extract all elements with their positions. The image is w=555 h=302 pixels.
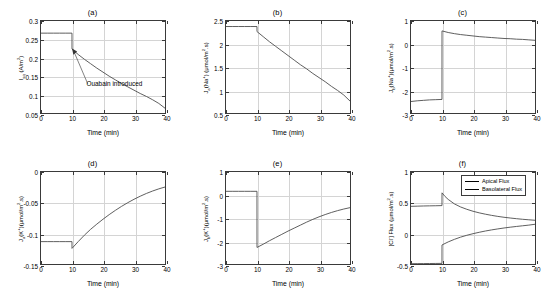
legend-item: Apical Flux: [465, 178, 522, 186]
annotation-arrow-line: [73, 51, 87, 84]
x-tickmark: [352, 21, 353, 24]
y-tick-label: 1: [404, 169, 408, 176]
legend-line-swatch: [465, 189, 479, 190]
plot-area-d: -0.15-0.1-0.050010203040Ja(K+)(μmol/m2.s…: [40, 171, 166, 265]
series-line: [411, 193, 535, 220]
y-axis-label-a: Isq (A/m2): [15, 21, 27, 115]
x-tick-label: 20: [285, 266, 292, 273]
y-axis-label-c: Jb(Na+)(μmol/m2.s): [385, 21, 397, 115]
legend: Apical FluxBasolateral Flux: [461, 175, 526, 196]
y-axis-label-f: [Cl-] Flux (μmol/m2.s): [385, 172, 397, 266]
x-tick-label: 40: [348, 266, 355, 273]
plot-area-b: 0.511.522.5010203040Ja(Na+) (μmol/m2.s): [225, 20, 351, 114]
x-axis-label-a: Time (min): [40, 129, 166, 136]
x-tick-label: 20: [285, 115, 292, 122]
x-tick-label: 30: [132, 115, 139, 122]
x-tickmark: [167, 172, 168, 175]
panel-title-b: (b): [185, 8, 370, 17]
figure-panel-grid: (a)0.050.10.150.20.250.3010203040Ouabain…: [0, 0, 555, 302]
x-axis-label-b: Time (min): [225, 129, 351, 136]
x-axis-label-f: Time (min): [410, 280, 536, 287]
data-curves-d: [41, 172, 165, 264]
x-tick-label: 0: [39, 115, 43, 122]
y-tick-label: 1: [219, 88, 223, 95]
plot-area-f: -0.500.51010203040Apical FluxBasolateral…: [410, 171, 536, 265]
panel-title-d: (d): [0, 159, 185, 168]
y-tick-label: 0: [219, 192, 223, 199]
y-tick-label: 0.2: [29, 55, 38, 62]
series-line: [41, 187, 165, 248]
x-tick-label: 10: [439, 266, 446, 273]
series-line: [226, 191, 350, 247]
y-tick-label: -0.5: [397, 263, 408, 270]
x-tickmark: [537, 110, 538, 113]
x-tick-label: 20: [100, 266, 107, 273]
x-tick-label: 40: [348, 115, 355, 122]
y-tick-label: -3: [402, 112, 408, 119]
x-tick-label: 10: [439, 115, 446, 122]
x-tickmark: [167, 110, 168, 113]
panel-e: (e)-3-2-101010203040Jb(K+)(μmol/m2.s)Tim…: [185, 151, 370, 302]
x-tick-label: 40: [163, 266, 170, 273]
x-axis-label-c: Time (min): [410, 129, 536, 136]
x-tick-label: 40: [533, 115, 540, 122]
x-tickmark: [352, 172, 353, 175]
y-tick-label: 2.5: [214, 18, 223, 25]
x-tick-label: 30: [502, 115, 509, 122]
y-tick-label: -2: [402, 88, 408, 95]
data-curves-c: [411, 21, 535, 113]
data-curves-e: [226, 172, 350, 264]
annotation-label-ouabain: Ouabain introduced: [87, 80, 143, 87]
y-axis-label-e: Jb(K+)(μmol/m2.s): [200, 172, 212, 266]
y-tick-label: 0: [404, 41, 408, 48]
x-tick-label: 20: [100, 115, 107, 122]
panel-title-a: (a): [0, 8, 185, 17]
data-curves-b: [226, 21, 350, 113]
x-tick-label: 10: [254, 115, 261, 122]
x-tick-label: 0: [409, 115, 413, 122]
legend-label: Basolateral Flux: [482, 186, 522, 194]
y-tick-label: 0.15: [26, 74, 38, 81]
y-tick-label: 1: [404, 18, 408, 25]
y-tick-label: 1: [219, 169, 223, 176]
x-tick-label: 30: [317, 266, 324, 273]
y-tick-label: 1.5: [214, 65, 223, 72]
x-tick-label: 0: [39, 266, 43, 273]
x-tick-label: 10: [69, 266, 76, 273]
x-tickmark: [352, 261, 353, 264]
x-tickmark: [167, 261, 168, 264]
x-tick-label: 0: [224, 266, 228, 273]
plot-area-a: 0.050.10.150.20.250.3010203040Ouabain in…: [40, 20, 166, 114]
legend-label: Apical Flux: [482, 178, 509, 186]
y-tick-label: 0.3: [29, 18, 38, 25]
y-axis-label-d: Ja(K+)(μmol/m2.s): [15, 172, 27, 266]
x-tick-label: 30: [317, 115, 324, 122]
y-tick-label: 0.05: [26, 112, 38, 119]
x-tick-label: 0: [409, 266, 413, 273]
plot-area-e: -3-2-101010203040Jb(K+)(μmol/m2.s): [225, 171, 351, 265]
panel-b: (b)0.511.522.5010203040Ja(Na+) (μmol/m2.…: [185, 0, 370, 151]
series-line: [41, 33, 165, 108]
x-tick-label: 40: [533, 266, 540, 273]
panel-d: (d)-0.15-0.1-0.050010203040Ja(K+)(μmol/m…: [0, 151, 185, 302]
legend-line-swatch: [465, 181, 479, 182]
y-tick-label: -2: [217, 239, 223, 246]
x-tick-label: 10: [254, 266, 261, 273]
x-tick-label: 40: [163, 115, 170, 122]
x-tick-label: 0: [224, 115, 228, 122]
x-axis-label-d: Time (min): [40, 280, 166, 287]
y-tick-label: -1: [217, 216, 223, 223]
panel-a: (a)0.050.10.150.20.250.3010203040Ouabain…: [0, 0, 185, 151]
x-tick-label: 30: [502, 266, 509, 273]
panel-title-c: (c): [370, 8, 555, 17]
x-tickmark: [537, 21, 538, 24]
y-tick-label: -0.1: [27, 231, 38, 238]
panel-title-e: (e): [185, 159, 370, 168]
y-tick-label: -3: [217, 263, 223, 270]
data-curves-a: [41, 21, 165, 113]
x-tickmark: [352, 110, 353, 113]
y-tick-label: 0: [404, 231, 408, 238]
y-tick-label: 0.1: [29, 93, 38, 100]
x-tick-label: 20: [470, 266, 477, 273]
series-line: [226, 27, 350, 102]
